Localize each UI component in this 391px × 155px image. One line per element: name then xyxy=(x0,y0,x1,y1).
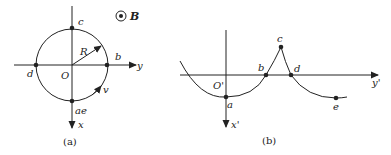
label-y-prime-axis: y' xyxy=(371,77,380,88)
trajectory-right-branch xyxy=(281,47,347,98)
point-c xyxy=(70,26,75,31)
magnetic-field-out-of-page-icon xyxy=(116,11,126,21)
label-y-axis: y xyxy=(136,60,143,71)
label-e: e xyxy=(333,101,339,112)
diagram-canvas: c b d ae O R v y x B (a) a b c xyxy=(0,0,391,155)
label-b: b xyxy=(258,62,264,73)
point-b xyxy=(105,63,110,68)
label-field-B: B xyxy=(129,10,139,23)
trajectory-left-branch xyxy=(180,47,281,97)
caption-a: (a) xyxy=(63,136,77,147)
point-d xyxy=(34,63,39,68)
velocity-arrow xyxy=(92,86,101,95)
label-c: c xyxy=(277,33,283,44)
point-ae xyxy=(70,99,75,104)
label-x-prime-axis: x' xyxy=(231,119,239,130)
point-d xyxy=(289,73,294,78)
label-c: c xyxy=(78,16,84,27)
label-origin-prime: O' xyxy=(213,80,224,91)
label-origin: O xyxy=(61,70,69,81)
label-radius: R xyxy=(79,46,88,57)
panel-b: a b c d e O' y' x' (b) xyxy=(180,30,380,146)
label-velocity: v xyxy=(103,84,109,95)
label-a: a xyxy=(227,99,233,110)
label-b: b xyxy=(115,51,121,62)
panel-a: c b d ae O R v y x B (a) xyxy=(14,6,143,147)
label-ae: ae xyxy=(75,105,87,116)
label-x-axis: x xyxy=(78,119,84,130)
point-c xyxy=(279,45,284,50)
point-e xyxy=(334,96,339,101)
point-b xyxy=(264,73,269,78)
label-d: d xyxy=(27,68,33,79)
label-d: d xyxy=(294,63,300,74)
caption-b: (b) xyxy=(262,135,276,146)
